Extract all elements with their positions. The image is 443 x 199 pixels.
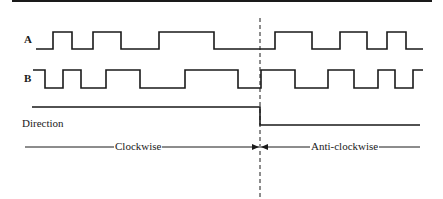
signal-b-waveform <box>33 70 423 88</box>
signal-a-label: A <box>24 34 32 45</box>
anticlockwise-label: Anti-clockwise <box>310 141 379 152</box>
clockwise-label: Clockwise <box>114 141 162 152</box>
anticlockwise-arrowhead-icon <box>261 144 268 150</box>
direction-label: Direction <box>22 118 64 129</box>
clockwise-arrowhead-icon <box>252 144 259 150</box>
quadrature-timing-diagram: A B Direction Clockwise Anti-clockwise <box>0 0 443 199</box>
direction-waveform <box>32 107 420 125</box>
signal-b-label: B <box>24 73 31 84</box>
signal-a-waveform <box>36 32 423 49</box>
timing-diagram-canvas <box>0 0 443 199</box>
